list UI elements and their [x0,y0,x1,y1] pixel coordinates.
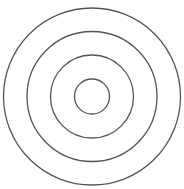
ring-3 [27,32,157,162]
concentric-circles-diagram [0,0,184,189]
ring-outer [4,8,181,185]
circles-svg [0,0,184,189]
ring-2 [51,55,134,138]
ring-inner [75,79,110,114]
